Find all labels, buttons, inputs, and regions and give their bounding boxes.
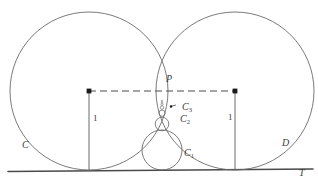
circle-C4 (160, 106, 164, 110)
label-circle-C3-subscript: 3 (189, 106, 192, 113)
geometry-figure: P C3 C2 C1 C D T 1 1 (0, 0, 318, 187)
label-circle-C2: C2 (180, 114, 190, 124)
left-center-dot (87, 89, 92, 94)
label-tangent-line-T: T (299, 168, 305, 178)
right-center-dot (233, 89, 238, 94)
label-right-radius-length: 1 (228, 113, 233, 122)
label-tangency-point-P: P (166, 74, 172, 84)
label-circle-C: C (22, 140, 29, 150)
label-left-radius-length: 1 (93, 114, 98, 123)
label-circle-C1-letter: C (184, 147, 191, 158)
label-circle-C3-letter: C (182, 101, 189, 112)
label-circle-D: D (282, 138, 289, 148)
label-circle-C2-letter: C (180, 113, 187, 124)
circle-C5 (161, 103, 163, 105)
c3-center-dot (170, 105, 173, 108)
circle-C3 (159, 110, 165, 116)
label-circle-C2-subscript: 2 (187, 118, 190, 125)
figure-canvas (0, 0, 318, 187)
label-circle-C3: C3 (182, 102, 192, 112)
circle-C7 (161, 100, 162, 101)
circle-C1 (142, 130, 182, 170)
circle-C6 (161, 101, 163, 103)
label-circle-C1-subscript: 1 (191, 152, 194, 159)
circle-C2 (155, 117, 169, 131)
label-circle-C1: C1 (184, 148, 194, 158)
